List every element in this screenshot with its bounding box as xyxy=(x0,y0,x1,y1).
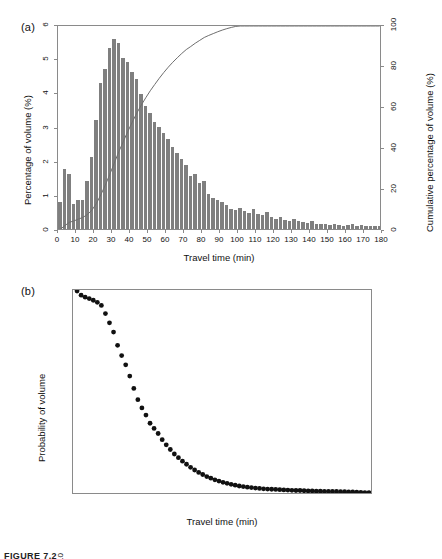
scatter-point xyxy=(192,468,197,473)
y-tick-label: 1 xyxy=(41,189,50,201)
x-tick-mark xyxy=(147,230,148,233)
y-tick-mark xyxy=(54,230,57,231)
x-tick-mark xyxy=(165,230,166,233)
y2-tick-label: 40 xyxy=(389,140,398,156)
scatter-point xyxy=(184,462,189,467)
x-tick-mark xyxy=(219,230,220,233)
scatter-point xyxy=(212,477,217,482)
x-tick-mark xyxy=(327,230,328,233)
probability-scatter xyxy=(73,290,372,494)
scatter-point xyxy=(131,386,136,391)
x-tick-mark xyxy=(129,230,130,233)
x-tick-mark xyxy=(255,230,256,233)
y2-tick-mark xyxy=(381,148,384,149)
y-tick-mark xyxy=(54,25,57,26)
y-tick-mark xyxy=(54,128,57,129)
y-tick-label: 6 xyxy=(41,19,50,31)
figure-container: (a) 010203040506070809010011012013014015… xyxy=(0,0,442,559)
y2-tick-mark xyxy=(381,230,384,231)
scatter-point xyxy=(245,485,250,490)
scatter-point xyxy=(95,300,100,305)
y-tick-mark xyxy=(54,162,57,163)
y2-tick-mark xyxy=(381,25,384,26)
y-tick-mark xyxy=(54,196,57,197)
scatter-point xyxy=(99,303,104,308)
y-tick-label: 4 xyxy=(41,87,50,99)
x-tick-mark xyxy=(201,230,202,233)
panel-b-xlabel: Travel time (min) xyxy=(72,516,372,527)
scatter-point xyxy=(107,320,112,325)
scatter-point xyxy=(221,480,226,485)
x-tick-mark xyxy=(57,230,58,233)
scatter-point xyxy=(233,483,238,488)
x-tick-mark xyxy=(291,230,292,233)
scatter-point xyxy=(225,481,230,486)
y2-tick-label: 100 xyxy=(389,17,398,33)
panel-b: (b) 010203040506070809010011012013014015… xyxy=(0,270,442,559)
scatter-point xyxy=(164,442,169,447)
panel-a-xlabel: Travel time (min) xyxy=(57,252,381,263)
panel-b-tag: (b) xyxy=(21,285,35,297)
x-tick-mark xyxy=(183,230,184,233)
scatter-point xyxy=(253,486,258,491)
y2-tick-mark xyxy=(381,107,384,108)
x-tick-mark xyxy=(309,230,310,233)
y-tick-label: 5 xyxy=(41,53,50,65)
scatter-point xyxy=(148,421,153,426)
y-tick-label: 2 xyxy=(41,155,50,167)
y-tick-mark xyxy=(54,93,57,94)
y2-tick-label: 20 xyxy=(389,181,398,197)
panel-b-plot-area xyxy=(72,289,372,494)
scatter-point xyxy=(358,490,363,494)
y2-tick-label: 60 xyxy=(389,99,398,115)
scatter-point xyxy=(188,465,193,470)
scatter-point xyxy=(172,452,177,457)
panel-a: (a) 010203040506070809010011012013014015… xyxy=(0,0,442,270)
scatter-point xyxy=(127,374,132,379)
scatter-point xyxy=(217,479,222,484)
cumulative-curve xyxy=(58,26,381,230)
scatter-point xyxy=(371,491,372,494)
y2-tick-mark xyxy=(381,189,384,190)
panel-a-ylabel: Percentage of volume (%) xyxy=(22,95,33,205)
scatter-point xyxy=(362,490,367,494)
scatter-point xyxy=(111,330,116,335)
scatter-point xyxy=(160,437,165,442)
scatter-point xyxy=(257,486,262,491)
panel-a-y2label: Cumulative percentage of volume (%) xyxy=(424,73,435,232)
x-tick-mark xyxy=(237,230,238,233)
y-tick-label: 3 xyxy=(41,121,50,133)
x-tick-mark xyxy=(93,230,94,233)
y2-tick-label: 0 xyxy=(389,222,398,238)
scatter-point xyxy=(229,482,234,487)
y2-tick-mark xyxy=(381,66,384,67)
scatter-point xyxy=(241,484,246,489)
scatter-point xyxy=(354,490,359,494)
y2-tick-label: 80 xyxy=(389,58,398,74)
x-tick-mark xyxy=(273,230,274,233)
scatter-point xyxy=(119,353,124,358)
x-tick-mark xyxy=(345,230,346,233)
scatter-point xyxy=(140,405,145,410)
panel-a-tag: (a) xyxy=(21,21,35,33)
scatter-point xyxy=(249,485,254,490)
scatter-point xyxy=(103,311,108,316)
panel-a-plot-area xyxy=(57,25,381,230)
figure-caption: FIGURE 7.2 xyxy=(4,551,57,559)
scatter-point xyxy=(152,426,157,431)
y-tick-mark xyxy=(54,59,57,60)
scatter-point xyxy=(115,343,120,348)
panel-b-ylabel: Probability of volume xyxy=(36,374,47,462)
y-tick-label: 0 xyxy=(41,224,50,236)
x-tick-mark xyxy=(75,230,76,233)
scatter-point xyxy=(168,447,173,452)
scatter-point xyxy=(367,490,372,494)
scatter-point xyxy=(237,484,242,489)
x-tick-mark xyxy=(111,230,112,233)
scatter-point xyxy=(176,455,181,460)
x-tick-mark xyxy=(363,230,364,233)
scatter-point xyxy=(75,290,80,293)
scatter-point xyxy=(156,431,161,436)
scatter-point xyxy=(180,459,185,464)
scatter-point xyxy=(135,397,140,402)
